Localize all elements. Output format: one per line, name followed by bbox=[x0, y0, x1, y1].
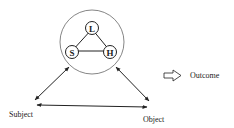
outcome-label: Outcome bbox=[190, 71, 220, 80]
diagram-canvas: L S H Outcome Subject Object bbox=[0, 0, 234, 128]
node-s: S bbox=[66, 46, 79, 59]
system-circle bbox=[60, 10, 124, 74]
outcome-arrow-icon bbox=[164, 70, 181, 81]
arrow-subject-object bbox=[37, 105, 147, 107]
node-l-label: L bbox=[89, 24, 95, 34]
node-s-label: S bbox=[69, 48, 74, 58]
object-label: Object bbox=[143, 115, 165, 124]
subject-label: Subject bbox=[9, 110, 34, 119]
arrow-subject-system bbox=[35, 67, 69, 100]
node-h: H bbox=[104, 46, 117, 59]
node-h-label: H bbox=[106, 48, 113, 58]
arrow-system-object bbox=[116, 67, 149, 101]
node-l: L bbox=[86, 22, 99, 35]
